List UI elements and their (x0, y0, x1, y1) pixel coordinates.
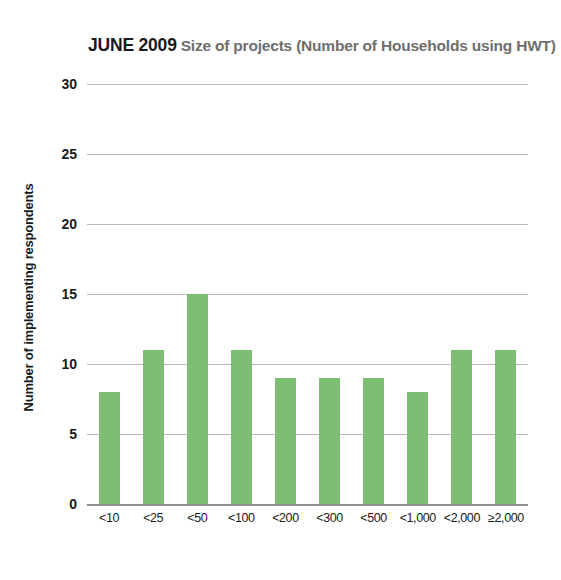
y-axis-tick-label: 10 (61, 356, 77, 372)
bar-series (87, 84, 528, 504)
x-axis-tick-label: <200 (272, 511, 299, 525)
x-axis-tick-label: <50 (187, 511, 207, 525)
bar (275, 378, 296, 504)
x-axis-tick-label: <100 (228, 511, 255, 525)
bar (407, 392, 428, 504)
y-axis-tick-label: 5 (69, 426, 77, 442)
bar (495, 350, 516, 504)
plot-area: 051015202530 (87, 84, 528, 504)
x-axis-tick-label: <25 (143, 511, 163, 525)
y-axis-tick-label: 15 (61, 286, 77, 302)
x-axis-tick-labels: <10<25<50<100<200<300<500<1,000<2,000≥2,… (87, 511, 528, 535)
chart-title: JUNE 2009Size of projects (Number of Hou… (88, 34, 548, 58)
x-axis-tick-label: <2,000 (444, 511, 480, 525)
y-axis-title: Number of implementing respondents (21, 128, 36, 468)
x-axis-tick-label: <300 (316, 511, 343, 525)
y-axis-tick-label: 20 (61, 216, 77, 232)
x-axis-tick-label: ≥2,000 (488, 511, 524, 525)
bar (99, 392, 120, 504)
x-axis-tick-label: <1,000 (400, 511, 436, 525)
bar (231, 350, 252, 504)
y-axis-tick-label: 30 (61, 76, 77, 92)
y-axis-tick-label: 0 (69, 496, 77, 512)
x-axis-tick-label: <10 (99, 511, 119, 525)
bar (143, 350, 164, 504)
bar (363, 378, 384, 504)
x-axis-line (87, 504, 528, 506)
chart-figure: JUNE 2009Size of projects (Number of Hou… (0, 0, 561, 580)
x-axis-tick-label: <500 (360, 511, 387, 525)
y-axis-tick-label: 25 (61, 146, 77, 162)
chart-title-description: Size of projects (Number of Households u… (181, 37, 556, 54)
bar (451, 350, 472, 504)
chart-title-period: JUNE 2009 (88, 35, 177, 55)
bar (187, 294, 208, 504)
bar (319, 378, 340, 504)
